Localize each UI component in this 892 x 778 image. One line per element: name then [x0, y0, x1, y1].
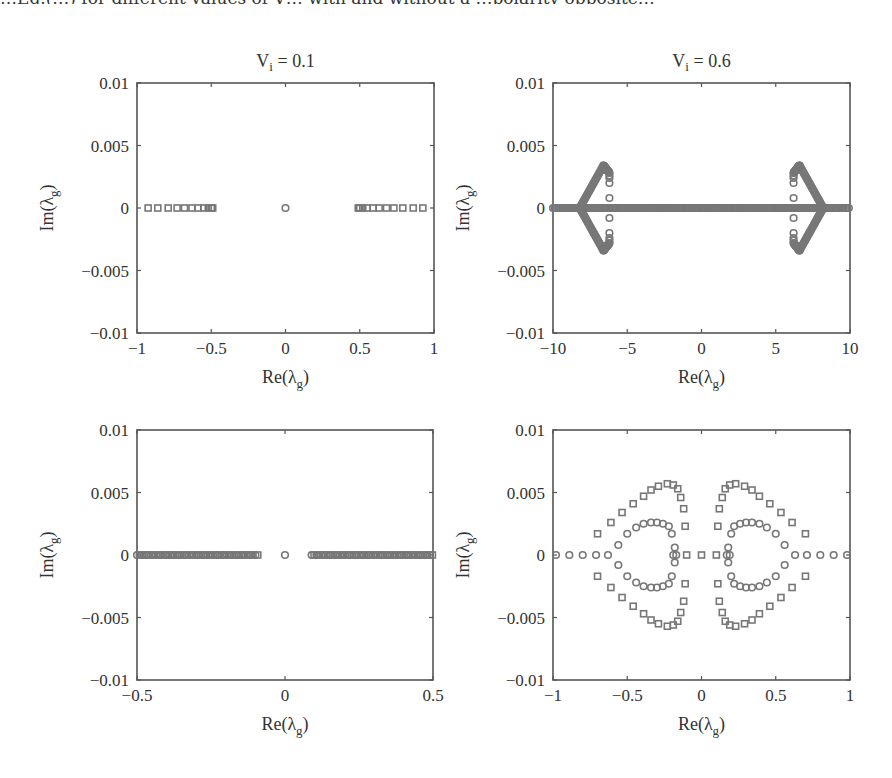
square-marker: [195, 205, 201, 211]
square-marker: [410, 205, 416, 211]
square-marker: [715, 523, 721, 529]
y-axis-label: Im(λg): [37, 531, 61, 578]
y-tick-label: 0.01: [515, 74, 545, 93]
data-markers: [550, 162, 852, 254]
circle-marker: [633, 524, 640, 531]
circle-marker: [781, 562, 788, 569]
y-tick-label: 0: [121, 199, 130, 218]
x-tick-label: 0.5: [349, 339, 370, 358]
square-marker: [383, 205, 389, 211]
circle-marker: [790, 215, 797, 222]
x-axis-label: Re(λg): [261, 714, 308, 738]
x-tick-label: 0: [697, 686, 706, 705]
y-tick-label: −0.01: [90, 671, 129, 690]
circle-marker: [605, 552, 612, 559]
square-marker: [742, 621, 748, 627]
square-marker: [174, 205, 180, 211]
square-marker: [767, 501, 773, 507]
y-axis-label: Im(λg): [453, 184, 477, 231]
circle-marker: [725, 544, 732, 551]
square-marker: [595, 531, 601, 537]
y-tick-label: −0.01: [506, 324, 545, 343]
circle-marker: [624, 530, 631, 537]
circle-marker: [772, 573, 779, 580]
square-marker: [648, 617, 654, 623]
y-tick-label: 0: [537, 199, 546, 218]
y-tick-label: 0.01: [99, 74, 129, 93]
subplot-top-right: −10−505100.010.0050−0.005−0.01Re(λg)Im(λ…: [453, 51, 859, 391]
square-marker: [608, 585, 614, 591]
square-marker: [682, 523, 688, 529]
y-tick-label: 0.01: [515, 421, 545, 440]
square-marker: [655, 621, 661, 627]
square-marker: [719, 610, 725, 616]
square-marker: [716, 598, 722, 604]
y-tick-label: 0: [121, 546, 130, 565]
circle-marker: [633, 579, 640, 586]
circle-marker: [671, 559, 678, 566]
square-marker: [400, 205, 406, 211]
square-marker: [391, 205, 397, 211]
square-marker: [630, 501, 636, 507]
data-markers: [553, 481, 851, 630]
square-marker: [655, 483, 661, 489]
square-marker: [648, 487, 654, 493]
square-marker: [802, 573, 808, 579]
square-marker: [733, 481, 739, 487]
x-tick-label: −0.5: [612, 686, 643, 705]
circle-marker: [666, 580, 673, 587]
circle-marker: [606, 195, 613, 202]
circle-marker: [728, 573, 735, 580]
square-marker: [749, 487, 755, 493]
square-marker: [719, 495, 725, 501]
subplot-title: Vi = 0.6: [672, 51, 730, 74]
circle-marker: [606, 215, 613, 222]
circle-marker: [725, 559, 732, 566]
y-tick-label: −0.005: [81, 609, 129, 628]
square-marker: [778, 510, 784, 516]
x-tick-label: 1: [430, 339, 439, 358]
circle-marker: [772, 530, 779, 537]
circle-marker: [764, 579, 771, 586]
y-tick-label: −0.01: [506, 671, 545, 690]
square-marker: [664, 623, 670, 629]
circle-marker: [817, 552, 824, 559]
square-marker: [756, 493, 762, 499]
circle-marker: [669, 573, 676, 580]
square-marker: [641, 611, 647, 617]
circle-marker: [731, 580, 738, 587]
circle-marker: [615, 562, 622, 569]
x-tick-label: −0.5: [196, 339, 227, 358]
square-marker: [778, 595, 784, 601]
x-axis-label: Re(λg): [678, 714, 725, 738]
square-marker: [682, 581, 688, 587]
square-marker: [713, 552, 719, 558]
square-marker: [681, 506, 687, 512]
x-tick-label: 0: [281, 686, 290, 705]
x-tick-label: 10: [842, 339, 859, 358]
square-marker: [182, 205, 188, 211]
circle-marker: [804, 552, 811, 559]
square-marker: [749, 617, 755, 623]
circle-marker: [731, 523, 738, 530]
circle-marker: [790, 195, 797, 202]
subplot-top-left: −1−0.500.510.010.0050−0.005−0.01Re(λg)Im…: [37, 51, 438, 391]
square-marker: [165, 205, 171, 211]
square-marker: [420, 205, 426, 211]
x-axis-label: Re(λg): [678, 367, 725, 391]
square-marker: [789, 585, 795, 591]
x-tick-label: −5: [618, 339, 636, 358]
circle-marker: [615, 542, 622, 549]
circle-marker: [764, 524, 771, 531]
data-markers: [145, 205, 426, 212]
circle-marker: [830, 552, 837, 559]
y-tick-label: −0.01: [90, 324, 129, 343]
x-tick-label: −1: [128, 339, 146, 358]
square-marker: [189, 205, 195, 211]
square-marker: [678, 495, 684, 501]
y-axis-label: Im(λg): [37, 184, 61, 231]
circle-marker: [756, 520, 763, 527]
x-tick-label: 0: [697, 339, 706, 358]
y-tick-label: −0.005: [497, 609, 545, 628]
circle-marker: [640, 583, 647, 590]
